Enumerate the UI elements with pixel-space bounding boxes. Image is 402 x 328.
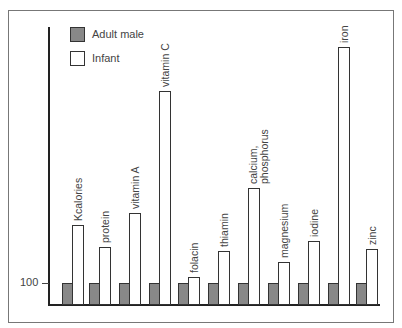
bar-infant: [308, 241, 320, 305]
category-label: zinc: [367, 226, 378, 245]
category-label: phosphorus: [259, 129, 270, 184]
bar-infant: [366, 249, 378, 305]
category-label: thiamin: [219, 213, 230, 247]
bar-infant: [188, 277, 200, 305]
bar-infant: [72, 225, 84, 305]
legend-swatch-infant: [70, 51, 85, 66]
legend-label-adult: Adult male: [92, 28, 144, 40]
y-axis: [48, 27, 50, 306]
category-label: protein: [100, 211, 111, 243]
category-label: Kcalories: [73, 178, 84, 221]
bar-infant: [159, 91, 171, 305]
bar-infant: [99, 247, 111, 305]
bar-infant: [278, 262, 290, 305]
category-label: folacin: [189, 243, 200, 273]
category-label: vitamin A: [130, 166, 141, 209]
y-tick-100: [42, 283, 49, 284]
bar-infant: [338, 47, 350, 305]
bar-infant: [248, 188, 260, 305]
legend-label-infant: Infant: [92, 52, 120, 64]
legend-swatch-adult: [70, 27, 85, 42]
bar-infant: [218, 251, 230, 305]
chart-frame: [8, 10, 394, 323]
bar-infant: [129, 213, 141, 305]
category-label: iron: [339, 25, 350, 43]
category-label: magnesium: [279, 204, 290, 258]
y-tick-label: 100: [20, 276, 38, 288]
category-label: vitamin C: [160, 43, 171, 87]
category-label: iodine: [309, 209, 320, 237]
